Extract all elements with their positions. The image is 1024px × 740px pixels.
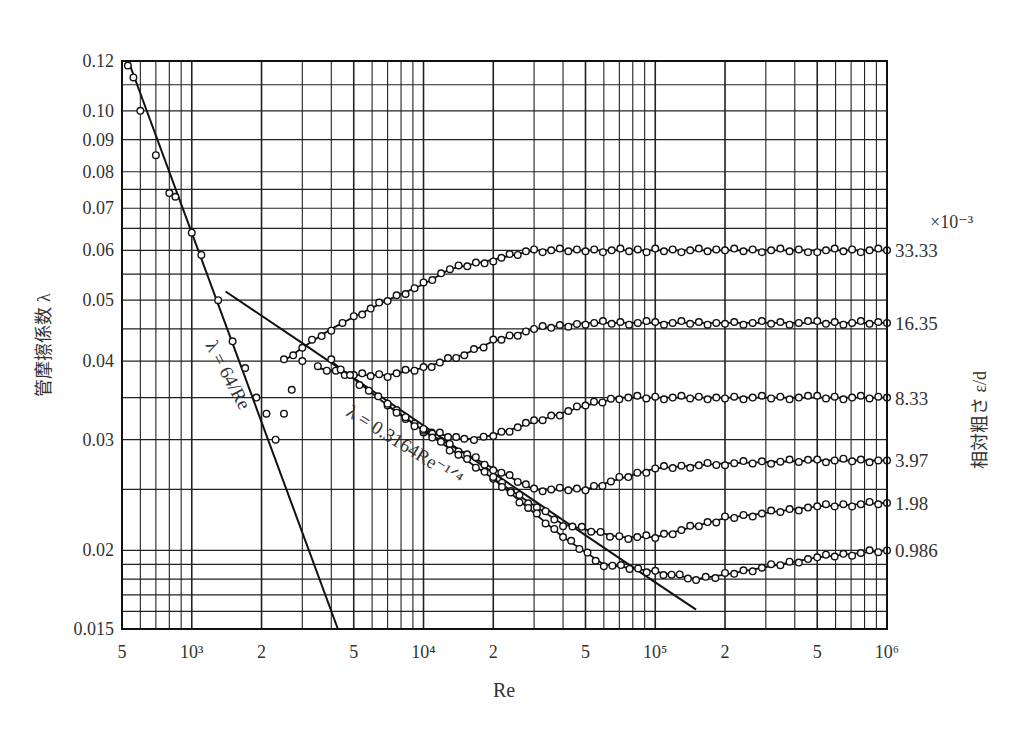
- data-point: [678, 392, 685, 399]
- data-point: [704, 248, 711, 255]
- data-point: [548, 486, 555, 493]
- data-point: [574, 321, 581, 328]
- data-point: [840, 248, 847, 255]
- data-point: [599, 399, 606, 406]
- x-tick-label: 5: [813, 642, 822, 662]
- data-point: [696, 245, 703, 252]
- data-point: [731, 460, 738, 467]
- data-point: [393, 292, 400, 299]
- data-point: [290, 352, 297, 359]
- data-point: [685, 575, 692, 582]
- data-point: [696, 523, 703, 530]
- data-point: [713, 320, 720, 327]
- data-point: [634, 534, 641, 541]
- data-point: [350, 313, 357, 320]
- data-point: [548, 412, 555, 419]
- data-point: [506, 428, 513, 435]
- data-point: [643, 532, 650, 539]
- data-point: [499, 484, 506, 491]
- data-point: [696, 462, 703, 469]
- data-point: [731, 515, 738, 522]
- data-point: [759, 458, 766, 465]
- data-point: [875, 393, 882, 400]
- data-point: [668, 571, 675, 578]
- data-point: [531, 417, 538, 424]
- data-point: [531, 246, 538, 253]
- data-point: [565, 408, 572, 415]
- y-axis-ticks: 0.120.100.090.080.070.060.050.040.030.02…: [74, 51, 115, 639]
- data-point: [786, 396, 793, 403]
- data-point: [831, 457, 838, 464]
- data-point: [786, 248, 793, 255]
- series-label: 16.35: [895, 313, 938, 334]
- data-point: [309, 336, 316, 343]
- y-tick-label: 0.08: [83, 162, 115, 182]
- data-point: [831, 393, 838, 400]
- data-point: [759, 249, 766, 256]
- data-point: [359, 370, 366, 377]
- data-point: [576, 546, 583, 553]
- x-tick-label: 10⁶: [875, 642, 899, 662]
- data-point: [393, 370, 400, 377]
- data-point: [786, 456, 793, 463]
- data-point: [411, 423, 418, 430]
- data-point: [840, 455, 847, 462]
- data-point: [600, 249, 607, 256]
- data-point: [643, 318, 650, 325]
- data-point: [453, 434, 460, 441]
- data-point: [713, 462, 720, 469]
- data-point: [678, 249, 685, 256]
- data-point: [402, 366, 409, 373]
- data-point: [652, 568, 659, 575]
- data-point: [445, 355, 452, 362]
- data-point: [840, 321, 847, 328]
- data-point: [678, 462, 685, 469]
- data-point: [749, 460, 756, 467]
- data-point: [625, 394, 632, 401]
- data-point: [507, 489, 514, 496]
- data-point: [172, 193, 179, 200]
- data-point: [704, 396, 711, 403]
- data-point: [831, 319, 838, 326]
- data-point: [759, 510, 766, 517]
- data-point: [548, 247, 555, 254]
- data-point: [849, 320, 856, 327]
- data-point: [702, 573, 709, 580]
- data-point: [137, 108, 144, 115]
- data-point: [591, 483, 598, 490]
- data-point: [722, 570, 729, 577]
- data-point: [731, 571, 738, 578]
- data-point: [428, 364, 435, 371]
- data-point: [263, 410, 270, 417]
- data-point: [759, 564, 766, 571]
- series-label: 33.33: [895, 240, 938, 261]
- data-point: [777, 319, 784, 326]
- data-point: [523, 420, 530, 427]
- data-point: [678, 318, 685, 325]
- data-point: [429, 434, 436, 441]
- x-axis-ticks: 510³2510⁴2510⁵2510⁶: [118, 642, 900, 662]
- data-point: [188, 229, 195, 236]
- data-point: [608, 247, 615, 254]
- data-point: [359, 311, 366, 318]
- data-point: [805, 318, 812, 325]
- data-point: [574, 485, 581, 492]
- data-point: [740, 458, 747, 465]
- data-point: [795, 320, 802, 327]
- data-point: [625, 536, 632, 543]
- data-point: [840, 501, 847, 508]
- data-point: [795, 559, 802, 566]
- data-point: [591, 246, 598, 253]
- data-point: [579, 524, 586, 531]
- data-point: [661, 248, 668, 255]
- data-point: [866, 321, 873, 328]
- data-point: [548, 325, 555, 332]
- data-point: [490, 474, 497, 481]
- data-point: [272, 436, 279, 443]
- data-point: [565, 248, 572, 255]
- data-point: [669, 394, 676, 401]
- data-point: [740, 512, 747, 519]
- data-point: [687, 523, 694, 530]
- data-point: [814, 249, 821, 256]
- y-tick-label: 0.06: [83, 240, 115, 260]
